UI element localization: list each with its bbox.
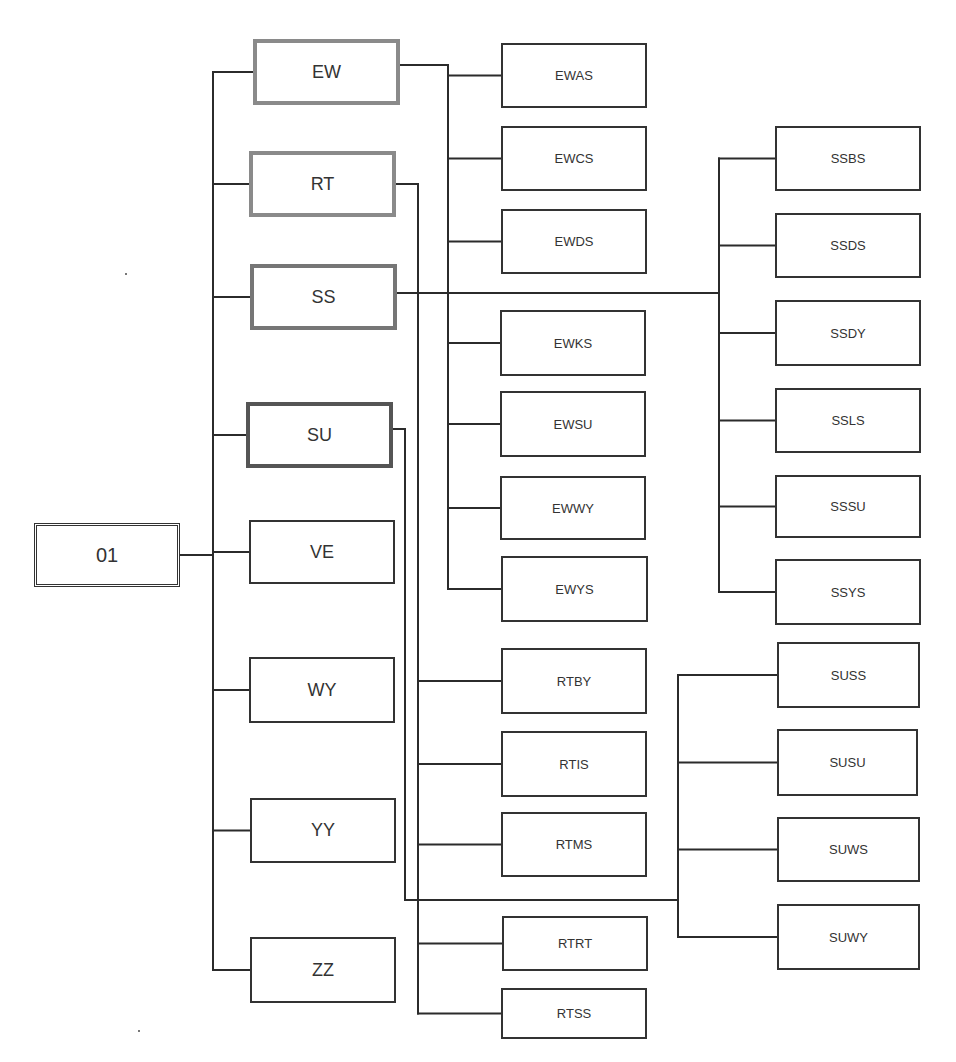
- node-label: RTSS: [557, 1006, 591, 1021]
- node-label: SUSS: [831, 668, 866, 683]
- node-rtms[interactable]: RTMS: [501, 812, 647, 877]
- node-ssds[interactable]: SSDS: [775, 213, 921, 278]
- node-ewys[interactable]: EWYS: [501, 556, 648, 622]
- node-label: SSDY: [830, 326, 865, 341]
- node-ewsu[interactable]: EWSU: [500, 391, 646, 457]
- node-su[interactable]: SU: [246, 402, 393, 468]
- node-ewwy[interactable]: EWWY: [500, 476, 646, 540]
- node-wy[interactable]: WY: [249, 657, 395, 723]
- node-ewcs[interactable]: EWCS: [501, 126, 647, 191]
- node-ssys[interactable]: SSYS: [775, 559, 921, 625]
- node-label: EWSU: [554, 417, 593, 432]
- node-rt[interactable]: RT: [249, 151, 396, 217]
- node-zz[interactable]: ZZ: [250, 937, 396, 1003]
- node-ss[interactable]: SS: [250, 264, 397, 330]
- node-label: SSSU: [830, 499, 865, 514]
- node-label: EWKS: [554, 336, 592, 351]
- node-label: SUWY: [829, 930, 868, 945]
- node-label: EWCS: [555, 151, 594, 166]
- node-ewds[interactable]: EWDS: [501, 209, 647, 274]
- node-label: EWWY: [552, 501, 594, 516]
- node-ve[interactable]: VE: [249, 520, 395, 584]
- node-label: SS: [311, 287, 335, 308]
- node-susu[interactable]: SUSU: [777, 729, 918, 796]
- node-suwy[interactable]: SUWY: [777, 904, 920, 970]
- node-ew[interactable]: EW: [253, 39, 400, 105]
- node-ssls[interactable]: SSLS: [775, 388, 921, 453]
- node-label: EWYS: [555, 582, 593, 597]
- node-label: SSLS: [831, 413, 864, 428]
- node-label: EWAS: [555, 68, 593, 83]
- node-rtrt[interactable]: RTRT: [502, 916, 648, 971]
- node-label: WY: [308, 680, 337, 701]
- node-label: RT: [311, 174, 335, 195]
- node-label: SSDS: [830, 238, 865, 253]
- node-label: SUSU: [829, 755, 865, 770]
- node-label: YY: [311, 820, 335, 841]
- node-label: RTIS: [559, 757, 588, 772]
- node-label: SU: [307, 425, 332, 446]
- node-ewas[interactable]: EWAS: [501, 43, 647, 108]
- node-suws[interactable]: SUWS: [777, 817, 920, 882]
- node-rtis[interactable]: RTIS: [501, 731, 647, 797]
- node-label: RTBY: [557, 674, 591, 689]
- node-label: VE: [310, 542, 334, 563]
- node-root-01[interactable]: 01: [34, 523, 180, 587]
- node-rtby[interactable]: RTBY: [501, 648, 647, 714]
- node-label: SSYS: [831, 585, 866, 600]
- stray-dot: [125, 273, 127, 275]
- node-label: SSBS: [831, 151, 866, 166]
- node-ewks[interactable]: EWKS: [500, 310, 646, 376]
- node-ssbs[interactable]: SSBS: [775, 126, 921, 191]
- node-rtss[interactable]: RTSS: [501, 988, 647, 1039]
- stray-dot: [138, 1030, 140, 1032]
- node-suss[interactable]: SUSS: [777, 642, 920, 708]
- node-label: EWDS: [555, 234, 594, 249]
- node-label: RTRT: [558, 936, 592, 951]
- node-label: RTMS: [556, 837, 593, 852]
- node-label: SUWS: [829, 842, 868, 857]
- node-yy[interactable]: YY: [250, 798, 396, 863]
- node-label: 01: [96, 544, 118, 567]
- node-label: ZZ: [312, 960, 334, 981]
- node-label: EW: [312, 62, 341, 83]
- node-ssdy[interactable]: SSDY: [775, 300, 921, 366]
- node-sssu[interactable]: SSSU: [775, 475, 921, 538]
